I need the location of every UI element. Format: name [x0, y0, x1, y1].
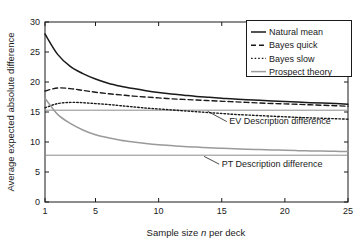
y-axis-title: Average expected absolute difference	[5, 32, 16, 191]
annotation-labels: EV Description differencePT Description …	[222, 116, 331, 169]
x-tick-label: 25	[343, 206, 353, 216]
legend-label: Bayes quick	[269, 40, 318, 50]
y-tick-label: 10	[30, 137, 40, 147]
x-axis-title: Sample size n per deck	[147, 227, 246, 238]
y-tick-label: 30	[30, 17, 40, 27]
y-tick-label: 5	[35, 167, 40, 177]
chart-legend: Natural meanBayes quickBayes slowProspec…	[247, 21, 352, 77]
y-tick-label: 0	[35, 197, 40, 207]
annotation-label: EV Description difference	[229, 116, 330, 126]
line-chart: 1510152025 051015202530 EV Description d…	[0, 0, 364, 251]
x-tick-label: 1	[42, 206, 47, 216]
x-tick-label: 15	[217, 206, 227, 216]
chart-figure: 1510152025 051015202530 EV Description d…	[0, 0, 364, 251]
legend-label: Natural mean	[269, 27, 323, 37]
annotation-leaders	[204, 111, 227, 164]
legend-label: Prospect theory	[269, 67, 333, 77]
y-tick-label: 15	[30, 107, 40, 117]
y-axis-tick-labels: 051015202530	[30, 17, 40, 207]
x-tick-label: 5	[93, 206, 98, 216]
x-tick-label: 20	[280, 206, 290, 216]
annotation-label: PT Description difference	[222, 159, 323, 169]
y-tick-label: 25	[30, 47, 40, 57]
legend-label: Bayes slow	[269, 54, 315, 64]
x-axis-title-suffix: per deck	[206, 227, 245, 238]
annotation-leader-line	[204, 156, 219, 164]
x-tick-label: 10	[154, 206, 164, 216]
y-tick-label: 20	[30, 77, 40, 87]
x-axis-title-prefix: Sample size	[147, 227, 201, 238]
x-axis-tick-labels: 1510152025	[42, 206, 353, 216]
